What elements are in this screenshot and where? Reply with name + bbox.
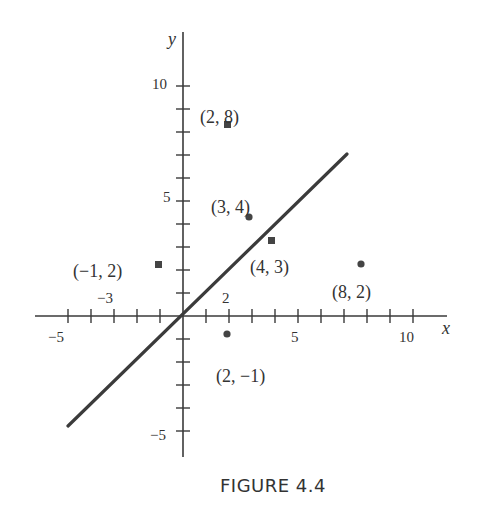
point-label-neg1-2: (−1, 2) <box>73 261 122 282</box>
y-axis-label: y <box>166 29 176 49</box>
point-label-3-4: (3, 4) <box>211 197 250 218</box>
x-tick-label-10: 10 <box>399 329 414 345</box>
circle-marker-2-neg1 <box>223 330 230 337</box>
point-label-4-3: (4, 3) <box>250 257 289 278</box>
point-label-2-8: (2, 8) <box>200 107 239 128</box>
coordinate-plane: −5 −3 2 5 10 10 5 −5 x y (2, 8) (3, 4) (… <box>0 0 482 512</box>
x-axis-label: x <box>441 318 450 338</box>
x-tick-label-2: 2 <box>222 290 230 306</box>
y-tick-label-5: 5 <box>163 189 171 205</box>
y-tick-label-neg5: −5 <box>150 427 166 443</box>
point-label-2-neg1: (2, −1) <box>216 366 265 387</box>
y-tick-label-10: 10 <box>152 76 167 92</box>
x-tick-label-neg5: −5 <box>48 329 64 345</box>
x-tick-label-5: 5 <box>291 329 299 345</box>
square-marker-neg1-2 <box>155 261 162 268</box>
figure-caption: FIGURE 4.4 <box>32 475 482 496</box>
square-marker-4-3 <box>268 237 275 244</box>
x-tick-label-neg3: −3 <box>97 290 113 306</box>
circle-marker-8-2 <box>357 260 364 267</box>
point-label-8-2: (8, 2) <box>332 282 371 303</box>
